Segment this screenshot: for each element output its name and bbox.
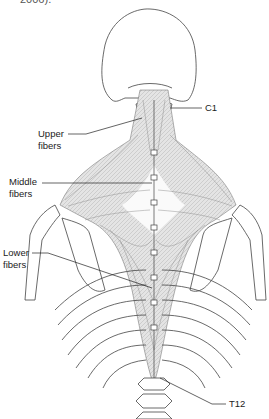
label-middle-line1: Middle (9, 176, 37, 188)
leader-upper (68, 118, 142, 134)
label-lower-line2: fibers (3, 259, 29, 271)
label-upper-fibers: Upper fibers (38, 128, 64, 152)
label-upper-line2: fibers (38, 140, 64, 152)
lumbar-vertebrae (136, 378, 172, 419)
label-c1: C1 (205, 102, 217, 114)
label-t12: T12 (229, 398, 245, 410)
label-lower-fibers: Lower fibers (3, 247, 29, 271)
skull (102, 9, 196, 101)
label-middle-line2: fibers (9, 188, 37, 200)
label-upper-line1: Upper (38, 128, 64, 140)
label-lower-line1: Lower (3, 247, 29, 259)
label-middle-fibers: Middle fibers (9, 176, 37, 200)
trapezius-illustration (0, 0, 269, 419)
